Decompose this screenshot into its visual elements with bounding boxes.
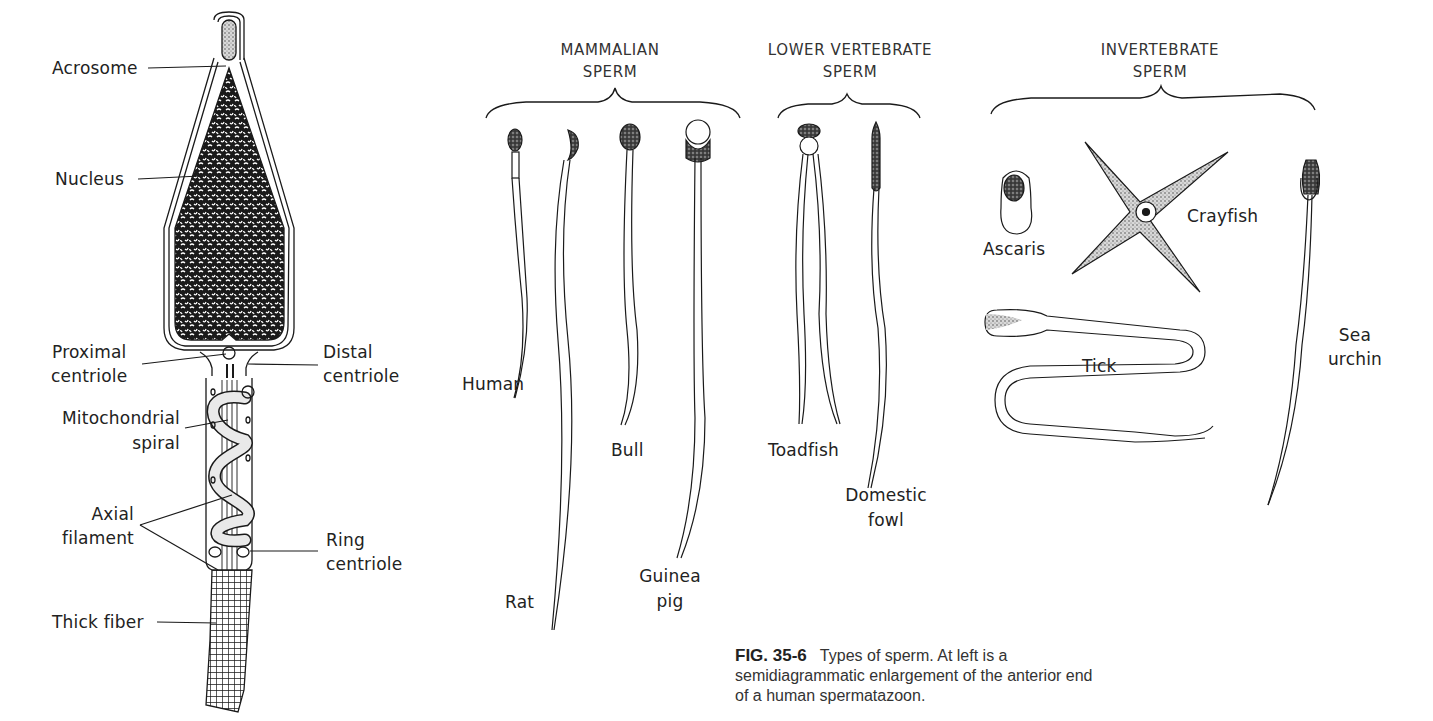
caption-line-1: FIG. 35-6 Types of sperm. At left is a xyxy=(735,646,1135,666)
label-ascaris: Ascaris xyxy=(983,239,1045,260)
label-nucleus: Nucleus xyxy=(55,169,124,190)
label-rat: Rat xyxy=(505,592,534,613)
label-tick: Tick xyxy=(1082,356,1117,377)
label-human: Human xyxy=(462,374,524,395)
label-mitochondrial-spiral-2: spiral xyxy=(40,433,180,454)
header-lower-vertebrate-2: SPERM xyxy=(755,62,945,82)
label-proximal-centriole-1: Proximal xyxy=(52,342,127,363)
invertebrate-drawings xyxy=(985,142,1320,505)
label-axial-filament-1: Axial xyxy=(40,504,134,525)
label-crayfish: Crayfish xyxy=(1187,206,1258,227)
header-invertebrate-2: SPERM xyxy=(1090,62,1230,82)
label-proximal-centriole-2: centriole xyxy=(51,366,127,387)
header-mammalian-2: SPERM xyxy=(545,62,675,82)
label-ring-centriole-1: Ring xyxy=(326,530,365,551)
label-toadfish: Toadfish xyxy=(768,440,839,461)
caption-text-1: Types of sperm. At left is a xyxy=(820,647,1008,664)
label-sea-urchin-2: urchin xyxy=(1320,349,1390,370)
label-acrosome: Acrosome xyxy=(52,58,138,79)
label-distal-centriole-2: centriole xyxy=(323,366,399,387)
label-thick-fiber: Thick fiber xyxy=(52,612,144,633)
header-invertebrate-1: INVERTEBRATE xyxy=(1090,40,1230,60)
figure-caption: FIG. 35-6 Types of sperm. At left is a s… xyxy=(735,646,1135,706)
label-mitochondrial-spiral-1: Mitochondrial xyxy=(40,408,180,429)
label-distal-centriole-1: Distal xyxy=(323,342,373,363)
label-bull: Bull xyxy=(611,440,644,461)
human-sperm-diagram xyxy=(164,12,294,712)
mammalian-sperm-drawings xyxy=(508,120,710,630)
caption-line-3: of a human spermatazoon. xyxy=(735,686,1135,706)
caption-line-2: semidiagrammatic enlargement of the ante… xyxy=(735,666,1135,686)
label-ring-centriole-2: centriole xyxy=(326,554,402,575)
label-domestic-fowl-2: fowl xyxy=(836,510,936,531)
label-axial-filament-2: filament xyxy=(40,528,134,549)
figure-illustration xyxy=(0,0,1433,721)
group-braces xyxy=(486,86,1315,118)
header-lower-vertebrate-1: LOWER VERTEBRATE xyxy=(755,40,945,60)
label-domestic-fowl-1: Domestic xyxy=(836,485,936,506)
figure-canvas: Acrosome Nucleus Proximal centriole Dist… xyxy=(0,0,1433,721)
header-mammalian-1: MAMMALIAN xyxy=(545,40,675,60)
label-guinea-pig-1: Guinea xyxy=(630,566,710,587)
lower-vertebrate-drawings xyxy=(796,122,887,488)
label-guinea-pig-2: pig xyxy=(630,591,710,612)
label-sea-urchin-1: Sea xyxy=(1320,325,1390,346)
figure-number: FIG. 35-6 xyxy=(735,646,807,665)
